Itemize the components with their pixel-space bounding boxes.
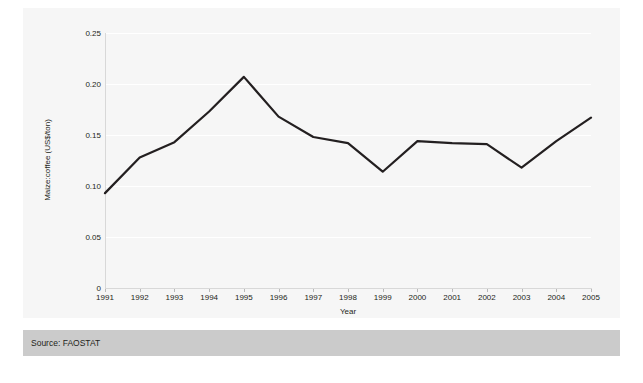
x-tick-mark — [383, 289, 384, 292]
y-tick-label: 0 — [97, 284, 101, 293]
x-tick-label: 2002 — [478, 293, 496, 302]
x-axis-title: Year — [105, 307, 591, 316]
x-tick-label: 1995 — [235, 293, 253, 302]
chart-figure: 00.050.100.150.200.25 199119921993199419… — [0, 0, 643, 383]
gridline-0.10 — [105, 186, 591, 187]
x-tick-mark — [348, 289, 349, 292]
x-tick-mark — [174, 289, 175, 292]
y-tick-label: 0.20 — [85, 80, 101, 89]
gridline-0.25 — [105, 33, 591, 34]
x-tick-mark — [487, 289, 488, 292]
y-tick-label: 0.05 — [85, 233, 101, 242]
x-tick-mark — [452, 289, 453, 292]
x-tick-label: 1993 — [166, 293, 184, 302]
source-label: Source: FAOSTAT — [23, 338, 100, 348]
gridline-0.15 — [105, 135, 591, 136]
x-tick-mark — [417, 289, 418, 292]
x-tick-mark — [522, 289, 523, 292]
x-tick-label: 1997 — [304, 293, 322, 302]
x-tick-label: 1999 — [374, 293, 392, 302]
y-axis-title: Maize:coffee (US$/ton) — [43, 119, 52, 201]
x-tick-mark — [140, 289, 141, 292]
plot-area — [105, 33, 591, 288]
x-tick-label: 1994 — [200, 293, 218, 302]
x-tick-mark — [279, 289, 280, 292]
gridline-0.20 — [105, 84, 591, 85]
y-tick-label: 0.25 — [85, 29, 101, 38]
x-tick-label: 1991 — [96, 293, 114, 302]
x-tick-mark — [591, 289, 592, 292]
x-tick-label: 2000 — [409, 293, 427, 302]
y-tick-label: 0.15 — [85, 131, 101, 140]
x-tick-mark — [209, 289, 210, 292]
x-tick-label: 1998 — [339, 293, 357, 302]
x-tick-mark — [244, 289, 245, 292]
y-tick-label-group: 00.050.100.150.200.25 — [60, 0, 101, 383]
x-tick-label: 2004 — [547, 293, 565, 302]
x-tick-label: 1992 — [131, 293, 149, 302]
x-tick-mark — [556, 289, 557, 292]
x-tick-label: 2003 — [513, 293, 531, 302]
x-tick-label: 2005 — [582, 293, 600, 302]
y-tick-label: 0.10 — [85, 182, 101, 191]
x-tick-mark — [105, 289, 106, 292]
x-tick-label: 1996 — [270, 293, 288, 302]
source-band: Source: FAOSTAT — [23, 330, 620, 356]
gridline-0.05 — [105, 237, 591, 238]
x-tick-mark — [313, 289, 314, 292]
x-tick-label: 2001 — [443, 293, 461, 302]
y-axis-line — [105, 33, 106, 289]
